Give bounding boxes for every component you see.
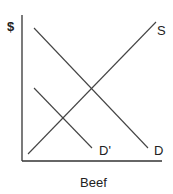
supply-demand-diagram — [0, 0, 173, 194]
supply-label: S — [157, 24, 166, 37]
y-axis-label: $ — [7, 20, 14, 33]
demand-label: D — [154, 144, 163, 157]
demand-shifted-label: D' — [99, 144, 111, 157]
x-axis-label: Beef — [80, 176, 107, 189]
